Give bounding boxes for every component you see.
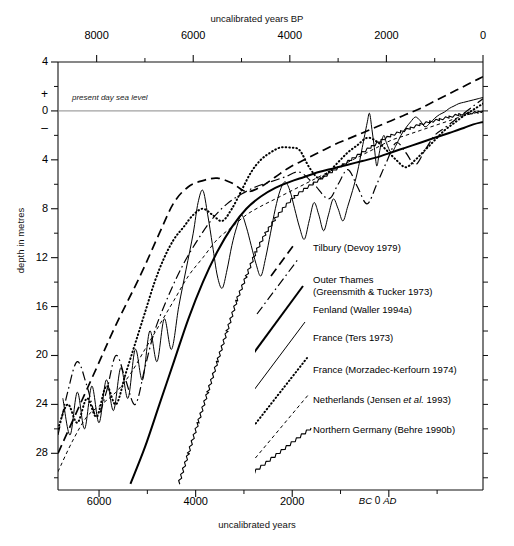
- bottom-tick-4000: 4000: [166, 495, 226, 507]
- legend-label-0: Tilbury (Devoy 1979): [313, 242, 401, 254]
- legend-line-samples: [255, 236, 385, 476]
- ad-label: AD: [383, 495, 396, 506]
- legend-sample-1: [257, 258, 299, 314]
- legend-sample-3: [255, 322, 305, 394]
- left-tick--4: 4: [8, 55, 48, 67]
- left-tick-12: 12: [8, 251, 48, 263]
- top-tick-6000: 6000: [163, 29, 223, 41]
- bottom-tick-bc-ad: BC 0 AD: [359, 495, 397, 506]
- left-tick-0: 0: [8, 104, 48, 116]
- left-tick-16: 16: [8, 300, 48, 312]
- top-tick-4000: 4000: [260, 29, 320, 41]
- top-tick-0: 0: [453, 29, 513, 41]
- legend-label-3: France (Ters 1973): [313, 332, 393, 344]
- legend-label-4: France (Morzadec-Kerfourn 1974): [313, 364, 457, 376]
- left-tick-4: 4: [8, 153, 48, 165]
- et-al-italic: et al.: [403, 394, 424, 405]
- legend-sample-0: [271, 246, 293, 276]
- legend-label-2: Fenland (Waller 1994a): [313, 304, 412, 316]
- bottom-tick-2000: 2000: [262, 495, 322, 507]
- zero-year-label: 0: [372, 495, 383, 506]
- left-tick--1.4: +: [8, 87, 48, 101]
- top-tick-8000: 8000: [67, 29, 127, 41]
- bottom-tick-6000: 6000: [69, 495, 129, 507]
- top-tick-2000: 2000: [356, 29, 416, 41]
- legend-sample-5: [255, 394, 309, 468]
- legend-label-1: Outer Thames (Greensmith & Tucker 1973): [313, 274, 432, 297]
- left-tick-1.4: –: [8, 121, 48, 135]
- legend-label-5: Netherlands (Jensen et al. 1993): [313, 394, 451, 406]
- left-tick-8: 8: [8, 202, 48, 214]
- legend-sample-4: [255, 358, 307, 432]
- legend-sample-6: [255, 428, 311, 476]
- left-tick-24: 24: [8, 397, 48, 409]
- legend: Tilbury (Devoy 1979)Outer Thames (Greens…: [255, 236, 505, 476]
- left-tick-20: 20: [8, 348, 48, 360]
- left-tick-28: 28: [8, 446, 48, 458]
- legend-label-6: Northern Germany (Behre 1990b): [313, 424, 455, 436]
- sea-level-curve-figure: uncalibrated years BP uncalibrated years…: [0, 0, 514, 546]
- bc-label: BC: [359, 495, 372, 506]
- legend-sample-2: [255, 286, 303, 354]
